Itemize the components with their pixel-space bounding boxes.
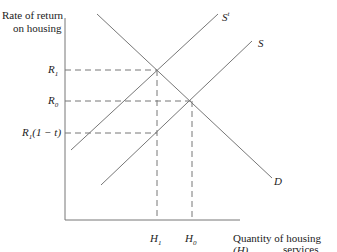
supply-curve (101, 41, 252, 185)
s-label: S (258, 37, 264, 49)
y-label-1: Rate of return (2, 9, 63, 21)
x-label-2: services (283, 243, 318, 252)
supply-curve-tax (71, 14, 218, 150)
demand-curve (97, 14, 272, 178)
s-tax-label: St (222, 8, 229, 23)
r1-label: R1 (48, 63, 58, 80)
d-label: D (274, 175, 282, 187)
h1-label: H1 (150, 232, 161, 249)
r0-label: R0 (48, 94, 58, 111)
r1t-label: R1(1 − t) (22, 126, 61, 143)
h0-label: H0 (185, 232, 196, 249)
diagram: Rate of return on housing R1 R0 R1(1 − t… (0, 0, 337, 252)
y-label-2: on housing (13, 22, 62, 34)
